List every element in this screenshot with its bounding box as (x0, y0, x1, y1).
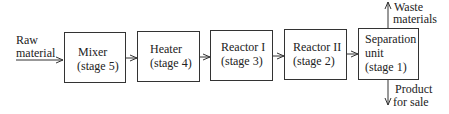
stage-number: (stage 1) (365, 60, 407, 74)
stage-number: (stage 4) (150, 56, 192, 70)
stage-box-reactor-1: Reactor I (stage 3) (210, 30, 273, 81)
input-label-line2: material (16, 46, 55, 60)
stage-name: Separation (365, 32, 416, 46)
stage-box-separation-unit: Separation unit (stage 1) (358, 28, 419, 80)
waste-label-line2: materials (393, 12, 437, 26)
stage-box-reactor-2: Reactor II (stage 2) (284, 29, 347, 80)
stage-number: (stage 5) (77, 59, 119, 73)
stage-name: Mixer (78, 45, 107, 59)
stage-name: Reactor II (293, 40, 341, 54)
stage-number: (stage 2) (293, 54, 335, 68)
product-label-line2: for sale (393, 95, 429, 109)
stage-name: Heater (150, 42, 182, 56)
product-label-line1: Product (395, 82, 432, 96)
stage-box-heater: Heater (stage 4) (137, 31, 200, 82)
stage-number: (stage 3) (221, 54, 263, 68)
stage-name-line2: unit (365, 46, 384, 60)
input-label-line1: Raw (16, 33, 38, 47)
stage-name: Reactor I (221, 40, 265, 54)
stage-box-mixer: Mixer (stage 5) (64, 32, 126, 83)
